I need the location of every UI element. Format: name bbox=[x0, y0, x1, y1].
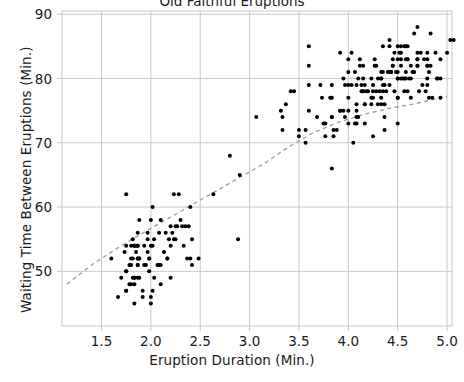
trend-line bbox=[67, 97, 447, 285]
data-points bbox=[109, 25, 455, 305]
svg-text:3.5: 3.5 bbox=[288, 333, 309, 349]
axis-ticks bbox=[57, 14, 447, 331]
svg-text:80: 80 bbox=[35, 71, 52, 87]
svg-text:70: 70 bbox=[35, 135, 52, 151]
plot-canvas: 1.52.02.53.03.54.04.55.05060708090 bbox=[0, 0, 464, 382]
svg-text:2.0: 2.0 bbox=[140, 333, 161, 349]
svg-text:4.5: 4.5 bbox=[387, 333, 408, 349]
svg-text:1.5: 1.5 bbox=[91, 333, 112, 349]
scatter-plot-figure: Old Faithful Eruptions 1.52.02.53.03.54.… bbox=[0, 0, 464, 382]
svg-text:50: 50 bbox=[35, 263, 52, 279]
x-axis-label: Eruption Duration (Min.) bbox=[0, 352, 464, 368]
svg-text:90: 90 bbox=[35, 6, 52, 22]
axis-tick-labels: 1.52.02.53.03.54.04.55.05060708090 bbox=[35, 6, 458, 349]
y-axis-label: Waiting Time Between Eruptions (Min.) bbox=[18, 46, 34, 313]
svg-text:2.5: 2.5 bbox=[189, 333, 210, 349]
svg-text:5.0: 5.0 bbox=[436, 333, 457, 349]
svg-text:3.0: 3.0 bbox=[239, 333, 260, 349]
svg-text:60: 60 bbox=[35, 199, 52, 215]
svg-text:4.0: 4.0 bbox=[338, 333, 359, 349]
